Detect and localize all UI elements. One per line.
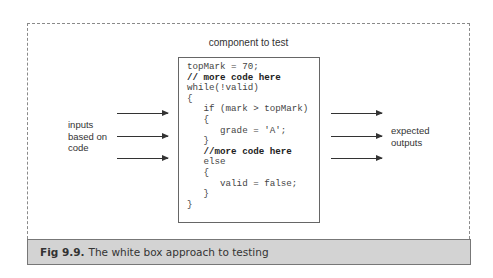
input-arrow-icon (117, 158, 168, 159)
inputs-label-line: inputs (68, 119, 107, 131)
component-title: component to test (178, 37, 319, 48)
figure-number: Fig 9.9. (40, 246, 85, 258)
code-line: { (187, 168, 319, 179)
input-arrow-icon (117, 136, 168, 137)
code-line: while(!valid) (187, 83, 319, 94)
code-line: { (187, 115, 319, 126)
code-line: } (187, 189, 319, 200)
inputs-label-line: code (68, 142, 107, 154)
outputs-label: expected outputs (391, 125, 430, 148)
code-line: topMark = 70; (187, 62, 319, 73)
inputs-label: inputs based on code (68, 119, 107, 154)
outputs-label-line: outputs (391, 137, 430, 149)
code-box: topMark = 70; // more code here while(!v… (178, 57, 320, 223)
output-arrow-icon (331, 136, 382, 137)
input-arrow-icon (117, 113, 168, 114)
figure-caption: Fig 9.9. The white box approach to testi… (27, 239, 471, 265)
output-arrow-icon (331, 113, 382, 114)
inputs-label-line: based on (68, 131, 107, 143)
outputs-label-line: expected (391, 125, 430, 137)
output-arrow-icon (331, 158, 382, 159)
code-line: } (187, 200, 319, 211)
figure-caption-text: The white box approach to testing (89, 246, 269, 258)
